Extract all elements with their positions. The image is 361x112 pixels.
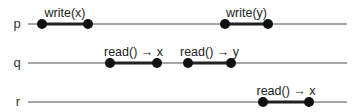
invocation-dot-icon xyxy=(105,58,115,68)
response-dot-icon xyxy=(226,58,236,68)
invocation-dot-icon xyxy=(258,97,268,107)
operation-label: write(x) xyxy=(44,6,86,20)
process-r: rread() → x xyxy=(16,84,347,109)
operation: write(y) xyxy=(220,6,273,29)
operation-label: read() → x xyxy=(104,45,164,59)
response-dot-icon xyxy=(83,19,93,29)
process-q: qread() → xread() → y xyxy=(13,45,347,70)
invocation-dot-icon xyxy=(220,19,230,29)
operation: read() → x xyxy=(104,45,164,68)
operation-label: write(y) xyxy=(225,6,267,20)
operation: read() → y xyxy=(180,45,240,68)
invocation-dot-icon xyxy=(183,58,193,68)
process-label: q xyxy=(13,55,20,70)
response-dot-icon xyxy=(304,97,314,107)
invocation-dot-icon xyxy=(37,19,47,29)
history-diagram: pwrite(x)write(y)qread() → xread() → yrr… xyxy=(0,0,361,112)
operation-label: read() → x xyxy=(256,84,316,98)
operation: write(x) xyxy=(37,6,93,29)
process-label: r xyxy=(16,94,21,109)
operation-label: read() → y xyxy=(180,45,240,59)
response-dot-icon xyxy=(152,58,162,68)
process-label: p xyxy=(13,16,20,31)
operation: read() → x xyxy=(256,84,316,107)
response-dot-icon xyxy=(263,19,273,29)
process-p: pwrite(x)write(y) xyxy=(13,6,347,31)
